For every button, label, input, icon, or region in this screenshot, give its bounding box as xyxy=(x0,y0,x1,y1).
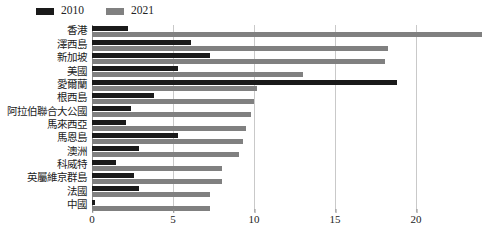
tick-mark xyxy=(335,209,336,213)
bar-2010 xyxy=(92,93,154,98)
value-axis-tick: 5 xyxy=(170,214,176,225)
bar-2010 xyxy=(92,160,116,165)
bar-2021 xyxy=(92,112,251,117)
gridline xyxy=(416,25,417,212)
bar-2021 xyxy=(92,152,239,157)
category-label: 澤西島 xyxy=(0,38,90,51)
bar-2021 xyxy=(92,126,246,131)
bar-row xyxy=(92,78,416,91)
bar-row xyxy=(92,145,416,158)
value-axis-tick-labels: 05101520 xyxy=(92,214,416,230)
bar-2010 xyxy=(92,106,131,111)
bar-2010 xyxy=(92,133,178,138)
category-label: 美國 xyxy=(0,65,90,78)
legend-label-2010: 2010 xyxy=(61,5,84,17)
bar-row xyxy=(92,159,416,172)
category-label: 根西島 xyxy=(0,92,90,105)
value-axis-tick: 15 xyxy=(330,214,341,225)
bar-2010 xyxy=(92,146,139,151)
bar-2010 xyxy=(92,80,397,85)
bar-2021 xyxy=(92,206,210,211)
bar-2021 xyxy=(92,46,388,51)
bar-2021 xyxy=(92,32,482,37)
category-label: 法國 xyxy=(0,185,90,198)
bar-row xyxy=(92,119,416,132)
bar-row xyxy=(92,38,416,51)
tick-mark xyxy=(92,209,93,213)
bar-row xyxy=(92,65,416,78)
value-axis-tick: 20 xyxy=(411,214,422,225)
bar-2010 xyxy=(92,26,128,31)
category-label: 中國 xyxy=(0,199,90,212)
category-label: 馬恩島 xyxy=(0,132,90,145)
category-label: 香港 xyxy=(0,25,90,38)
bar-2021 xyxy=(92,179,222,184)
legend-label-2021: 2021 xyxy=(131,5,154,17)
tick-mark xyxy=(254,209,255,213)
bar-2021 xyxy=(92,139,243,144)
bar-2010 xyxy=(92,66,178,71)
legend-item-2021: 2021 xyxy=(106,5,154,17)
bar-2021 xyxy=(92,59,385,64)
bar-row xyxy=(92,172,416,185)
legend-swatch-2021 xyxy=(106,8,124,15)
category-label: 馬來西亞 xyxy=(0,119,90,132)
legend-item-2010: 2010 xyxy=(36,5,84,17)
bar-2021 xyxy=(92,99,254,104)
bar-row xyxy=(92,132,416,145)
bar-row xyxy=(92,185,416,198)
category-label: 英屬維京群島 xyxy=(0,172,90,185)
bar-rows xyxy=(92,25,416,212)
category-label: 澳洲 xyxy=(0,145,90,158)
bar-2010 xyxy=(92,120,126,125)
tick-mark xyxy=(173,209,174,213)
value-axis-tick: 10 xyxy=(249,214,260,225)
category-label: 科威特 xyxy=(0,159,90,172)
bar-2010 xyxy=(92,200,95,205)
bar-2021 xyxy=(92,86,257,91)
category-axis-labels: 香港澤西島新加坡美國愛爾蘭根西島阿拉伯聯合大公國馬來西亞馬恩島澳洲科威特英屬維京… xyxy=(0,25,90,212)
bar-row xyxy=(92,25,416,38)
bar-2021 xyxy=(92,192,210,197)
bar-2021 xyxy=(92,72,303,77)
legend-swatch-2010 xyxy=(36,8,54,15)
chart-legend: 2010 2021 xyxy=(36,4,154,18)
category-label: 愛爾蘭 xyxy=(0,78,90,91)
bar-2010 xyxy=(92,186,139,191)
category-label: 新加坡 xyxy=(0,52,90,65)
plot-area xyxy=(92,25,416,212)
value-axis-tick: 0 xyxy=(89,214,95,225)
bar-2021 xyxy=(92,166,222,171)
bar-2010 xyxy=(92,53,210,58)
tick-mark xyxy=(416,209,417,213)
category-label: 阿拉伯聯合大公國 xyxy=(0,105,90,118)
bar-row xyxy=(92,52,416,65)
bar-row xyxy=(92,92,416,105)
bar-row xyxy=(92,105,416,118)
bar-2010 xyxy=(92,40,191,45)
bar-2010 xyxy=(92,173,134,178)
